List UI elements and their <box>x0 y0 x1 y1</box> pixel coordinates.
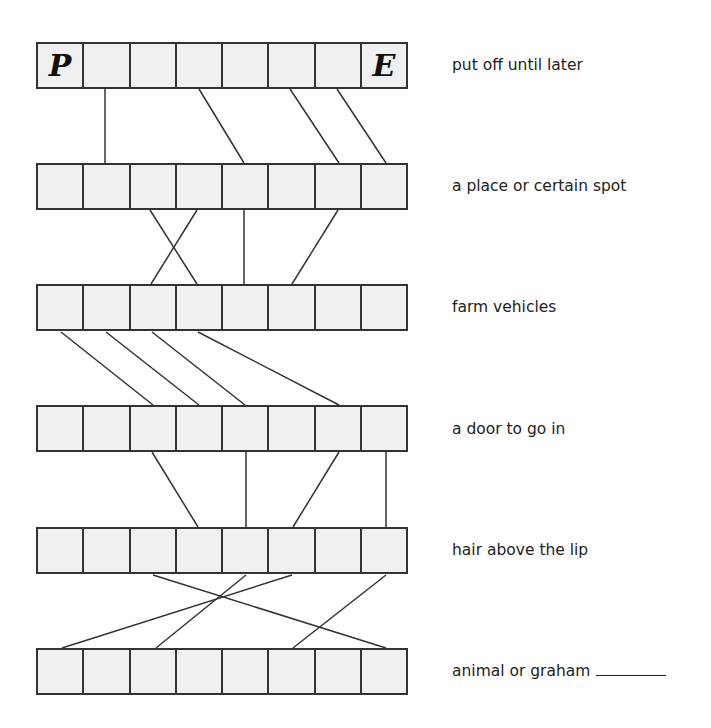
connector-line <box>152 332 245 405</box>
letter-box[interactable] <box>177 165 223 208</box>
connector-line <box>156 575 246 648</box>
letter-box[interactable] <box>38 650 84 693</box>
clue-row-2: a place or certain spot <box>452 177 626 195</box>
clue-row-1: put off until later <box>452 56 583 74</box>
connector-line <box>153 575 386 648</box>
letter-box[interactable] <box>177 529 223 572</box>
letter-box[interactable] <box>223 44 269 87</box>
connector-line <box>199 89 244 163</box>
clue-row-6: animal or graham <box>452 662 666 680</box>
letter-box[interactable] <box>316 529 362 572</box>
letter-box[interactable] <box>223 650 269 693</box>
letter-box[interactable] <box>84 650 130 693</box>
letter-box[interactable] <box>269 529 315 572</box>
connector-line <box>106 332 199 405</box>
letter-box[interactable] <box>362 650 406 693</box>
letter-box[interactable] <box>131 529 177 572</box>
answer-blank <box>596 674 666 676</box>
letter-box[interactable] <box>131 286 177 329</box>
letter-box[interactable] <box>269 286 315 329</box>
letter-box[interactable] <box>269 44 315 87</box>
letter-box[interactable] <box>223 529 269 572</box>
word-row-5 <box>36 527 408 574</box>
letter-box[interactable] <box>177 286 223 329</box>
letter-box[interactable] <box>38 407 84 450</box>
letter-box[interactable] <box>269 650 315 693</box>
letter-box[interactable] <box>131 165 177 208</box>
letter-box[interactable] <box>269 165 315 208</box>
connector-line <box>293 452 339 527</box>
letter-box[interactable] <box>316 286 362 329</box>
letter-box[interactable] <box>131 407 177 450</box>
letter-box[interactable] <box>177 650 223 693</box>
letter-box[interactable] <box>362 286 406 329</box>
letter-box[interactable] <box>177 407 223 450</box>
letter-box[interactable] <box>223 407 269 450</box>
letter-box[interactable] <box>177 44 223 87</box>
word-row-1: P E <box>36 42 408 89</box>
letter-box[interactable] <box>316 44 362 87</box>
letter-box[interactable] <box>316 650 362 693</box>
letter-box[interactable] <box>84 165 130 208</box>
connector-line <box>293 575 386 648</box>
letter-box[interactable] <box>316 165 362 208</box>
letter-box[interactable] <box>84 529 130 572</box>
letter-box[interactable] <box>84 286 130 329</box>
connector-lines <box>0 0 711 728</box>
connector-line <box>62 575 292 648</box>
word-row-2 <box>36 163 408 210</box>
letter-box[interactable] <box>362 529 406 572</box>
clue-row-5: hair above the lip <box>452 541 588 559</box>
connector-line <box>198 332 339 405</box>
letter-box[interactable] <box>131 650 177 693</box>
clue-text: animal or graham <box>452 662 590 680</box>
letter-box[interactable] <box>38 286 84 329</box>
letter-box[interactable] <box>131 44 177 87</box>
letter-box[interactable] <box>362 407 406 450</box>
letter-box[interactable] <box>269 407 315 450</box>
letter-box[interactable] <box>223 165 269 208</box>
connector-line <box>61 332 153 405</box>
letter-box[interactable]: E <box>362 44 406 87</box>
letter-box[interactable] <box>362 165 406 208</box>
letter-box[interactable] <box>38 529 84 572</box>
letter-box[interactable]: P <box>38 44 84 87</box>
letter-box[interactable] <box>223 286 269 329</box>
letter-box[interactable] <box>38 165 84 208</box>
word-row-3 <box>36 284 408 331</box>
connector-line <box>290 89 339 163</box>
connector-line <box>152 452 198 527</box>
letter-box[interactable] <box>84 407 130 450</box>
letter-box[interactable] <box>84 44 130 87</box>
word-row-6 <box>36 648 408 695</box>
clue-row-3: farm vehicles <box>452 298 556 316</box>
connector-line <box>292 210 338 284</box>
connector-line <box>337 89 386 163</box>
clue-row-4: a door to go in <box>452 420 565 438</box>
word-row-4 <box>36 405 408 452</box>
letter-box[interactable] <box>316 407 362 450</box>
